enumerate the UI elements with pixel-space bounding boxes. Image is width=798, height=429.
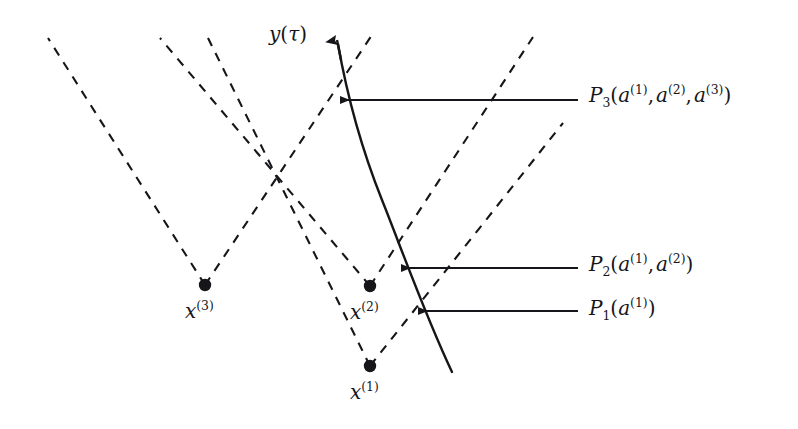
annotation-label-p3: P3(a(1), a(2), a(3)) [589,84,731,109]
annotation-p2-arg1-var: a [618,252,630,276]
annotation-p3-arg3-var: a [694,83,706,107]
point-label-x1-var: x [350,380,361,404]
annotation-p2-comma1: , [648,252,656,276]
figure-canvas: y(τ) x(3) x(2) x(1) P3(a(1), a(2), a(3))… [0,0,798,429]
cone-x2-left-ray [160,38,370,286]
annotation-p2-arg2-var: a [656,252,668,276]
annotation-p3-arg1-sup: (1) [630,82,648,97]
annotation-p3-comma2: , [686,83,694,107]
annotation-p1-arg1-sup: (1) [630,295,648,310]
cone-x3-left-ray [48,38,205,285]
point-label-x2-var: x [350,300,361,324]
point-marker-group [199,279,376,372]
point-marker-x3 [199,279,211,291]
point-label-x2-sup: (2) [361,299,379,314]
annotation-p3-arg1-var: a [618,83,630,107]
annotation-p3-close-paren: ) [723,83,731,107]
annotation-p2-arg1-sup: (1) [630,251,648,266]
trajectory-arrow-shaft [337,40,341,60]
point-label-x1: x(1) [350,381,379,402]
cone-x2-right-ray [370,37,533,286]
annotation-p1-symbol: P [589,296,602,320]
point-marker-x2 [364,280,376,292]
point-label-x1-sup: (1) [361,379,379,394]
point-label-x3-var: x [185,299,196,323]
annotation-p3-arg2-var: a [656,83,668,107]
dashed-cone-group [48,35,563,366]
axis-label-y-tau: y(τ) [269,24,307,44]
annotation-p2-symbol: P [589,252,602,276]
point-label-x3-sup: (3) [196,298,214,313]
point-marker-x1 [364,360,376,372]
annotation-label-p1: P1(a(1)) [589,297,655,322]
annotation-p3-arg3-sup: (3) [706,82,724,97]
annotation-p3-symbol: P [589,83,602,107]
point-label-x2: x(2) [350,301,379,322]
annotation-p3-comma1: , [648,83,656,107]
diagram-svg [0,0,798,429]
annotation-p2-open-paren: ( [610,252,618,276]
annotation-p3-open-paren: ( [610,83,618,107]
annotation-label-p2: P2(a(1), a(2)) [589,253,693,278]
annotation-p2-arg2-sup: (2) [668,251,686,266]
cone-x3-right-ray [205,35,372,285]
annotation-arrow-group [340,100,578,311]
annotation-p2-close-paren: ) [686,252,694,276]
axis-label-arg: τ [288,22,299,46]
axis-label-var: y [269,22,280,46]
point-label-x3: x(3) [185,300,214,321]
annotation-p1-close-paren: ) [648,296,656,320]
annotation-p3-arg2-sup: (2) [668,82,686,97]
axis-label-open-paren: ( [280,22,288,46]
annotation-p1-arg1-var: a [618,296,630,320]
axis-label-close-paren: ) [299,22,307,46]
annotation-p1-open-paren: ( [610,296,618,320]
